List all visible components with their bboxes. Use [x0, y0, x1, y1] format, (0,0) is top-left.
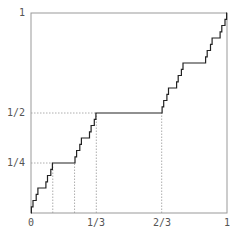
y-tick-1-4: 1/4: [7, 157, 25, 168]
x-tick-0: 0: [28, 217, 34, 228]
x-tick-2-3: 2/3: [153, 217, 171, 228]
x-tick-1: 1: [224, 217, 230, 228]
guide-lines: [31, 113, 162, 213]
cantor-staircase-curve: [31, 13, 227, 213]
x-tick-1-3: 1/3: [87, 217, 105, 228]
cantor-function-chart: 0 1/3 2/3 1 1/4 1/2 1: [0, 0, 240, 234]
y-tick-1: 1: [19, 7, 25, 18]
y-tick-1-2: 1/2: [7, 107, 25, 118]
